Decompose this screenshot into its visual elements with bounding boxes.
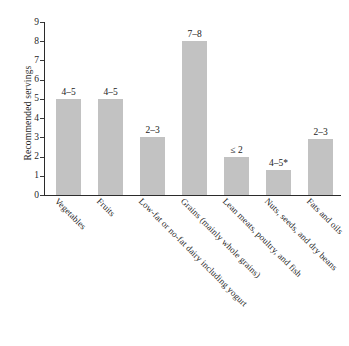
bar-value-label: ≤ 2: [230, 145, 242, 155]
y-tick-label: 9: [34, 16, 39, 28]
y-tick-label: 1: [34, 169, 39, 181]
y-tick-label: 5: [34, 92, 39, 104]
bar-fruits[interactable]: 4–5: [98, 99, 123, 195]
category-label-grains: Grains (mainly whole grains): [179, 196, 263, 280]
plot-area: 9 8 7 6 5 4 3 2: [44, 22, 341, 195]
y-tick-label: 8: [34, 35, 39, 47]
y-tick-mark: [40, 41, 44, 42]
y-tick-label: 3: [34, 131, 39, 143]
bar-grains[interactable]: 7–8: [182, 41, 207, 195]
y-tick-label: 4: [34, 112, 39, 124]
category-label-vegetables: Vegetables: [53, 196, 88, 231]
y-tick-label: 7: [34, 54, 39, 66]
bar-nuts-seeds-dry-beans[interactable]: 4–5*: [266, 170, 291, 195]
y-tick-mark: [40, 60, 44, 61]
category-label-fruits: Fruits: [95, 196, 117, 218]
y-tick-mark: [40, 176, 44, 177]
y-tick-mark: [40, 157, 44, 158]
y-tick-mark: [40, 118, 44, 119]
y-tick-mark: [40, 137, 44, 138]
y-tick-mark: [40, 22, 44, 23]
bar-value-label: 4–5*: [269, 158, 288, 168]
bar-value-label: 7–8: [187, 29, 201, 39]
bar-value-label: 4–5: [61, 87, 75, 97]
bar-low-fat-dairy[interactable]: 2–3: [140, 137, 165, 195]
bar-value-label: 2–3: [313, 127, 327, 137]
y-axis-line: [44, 22, 45, 195]
y-axis-title: Recommended servings: [23, 33, 33, 193]
x-axis-category-labels: Vegetables Fruits Low-fat or no-fat dair…: [44, 196, 344, 346]
y-tick-mark: [40, 80, 44, 81]
bar-vegetables[interactable]: 4–5: [56, 99, 81, 195]
bar-value-label: 4–5: [103, 87, 117, 97]
y-tick-label: 2: [34, 150, 39, 162]
category-label-nuts-seeds: Nuts, seeds, and dry beans: [263, 196, 339, 272]
y-tick-mark: [40, 99, 44, 100]
category-label-lean-meats: Lean meats, poultry, and fish: [221, 196, 304, 279]
bar-lean-meats-poultry-fish[interactable]: ≤ 2: [224, 157, 249, 195]
bar-value-label: 2–3: [145, 125, 159, 135]
y-tick-label: 0: [34, 189, 39, 201]
category-label-fats-and-oils: Fats and oils: [305, 196, 345, 236]
bar-chart: Recommended servings 9 8 7 6 5 4: [0, 0, 349, 346]
y-tick-label: 6: [34, 73, 39, 85]
bar-fats-and-oils[interactable]: 2–3: [308, 139, 333, 195]
